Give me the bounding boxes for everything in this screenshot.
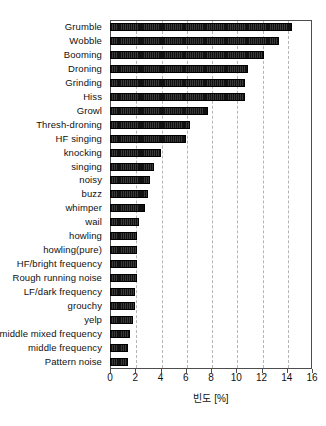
- bar: [110, 79, 245, 87]
- bar: [110, 135, 186, 143]
- bar: [110, 232, 137, 240]
- bar-row: [110, 285, 312, 299]
- category-label: middle mixed frequency: [0, 329, 102, 339]
- category-label: HF/bright frequency: [17, 259, 102, 269]
- bar-row: [110, 313, 312, 327]
- bar: [110, 163, 154, 171]
- category-label-row: Droning: [0, 62, 106, 76]
- bar: [110, 121, 190, 129]
- category-label-row: Rough running noise: [0, 271, 106, 285]
- category-label-row: whimper: [0, 201, 106, 215]
- bar-row: [110, 76, 312, 90]
- bar-row: [110, 132, 312, 146]
- bar: [110, 65, 248, 73]
- bar: [110, 176, 150, 184]
- bar: [110, 330, 130, 338]
- category-label-row: Wobble: [0, 34, 106, 48]
- category-label: Thresh-droning: [36, 120, 102, 130]
- category-label: Rough running noise: [12, 273, 102, 283]
- bar-row: [110, 299, 312, 313]
- bar: [110, 302, 135, 310]
- category-label-row: grouchy: [0, 299, 106, 313]
- category-label-row: Hiss: [0, 90, 106, 104]
- category-label: buzz: [82, 189, 102, 199]
- bar: [110, 316, 133, 324]
- category-label-row: Booming: [0, 48, 106, 62]
- category-label-row: Grinding: [0, 76, 106, 90]
- bar: [110, 246, 137, 254]
- category-label: LF/dark frequency: [24, 287, 102, 297]
- bar-row: [110, 146, 312, 160]
- x-tick-label-10: 10: [231, 372, 242, 384]
- category-label-row: middle mixed frequency: [0, 327, 106, 341]
- category-label-row: yelp: [0, 313, 106, 327]
- bar-row: [110, 20, 312, 34]
- category-label-row: howling(pure): [0, 243, 106, 257]
- bar-row: [110, 173, 312, 187]
- category-label-row: Grumble: [0, 20, 106, 34]
- x-tick-label-8: 8: [208, 372, 214, 384]
- category-label-row: HF/bright frequency: [0, 257, 106, 271]
- category-label: wail: [85, 217, 102, 227]
- bar-row: [110, 34, 312, 48]
- bar-row: [110, 243, 312, 257]
- bar-row: [110, 341, 312, 355]
- bar-row: [110, 215, 312, 229]
- category-label: Pattern noise: [45, 357, 102, 367]
- category-label: howling: [69, 231, 102, 241]
- bar-series: [110, 20, 312, 369]
- x-tick-label-12: 12: [256, 372, 267, 384]
- bar: [110, 149, 161, 157]
- bar-row: [110, 90, 312, 104]
- x-tick-label-16: 16: [306, 372, 317, 384]
- category-label-row: buzz: [0, 187, 106, 201]
- category-label: singing: [71, 162, 102, 172]
- category-axis-labels: GrumbleWobbleBoomingDroningGrindingHissG…: [0, 20, 106, 369]
- category-label-row: singing: [0, 160, 106, 174]
- category-label: grouchy: [68, 301, 103, 311]
- category-label: middle frequency: [28, 343, 102, 353]
- category-label: HF singing: [56, 134, 102, 144]
- category-label-row: Pattern noise: [0, 355, 106, 369]
- bar: [110, 51, 264, 59]
- bar-row: [110, 327, 312, 341]
- category-label-row: noisy: [0, 173, 106, 187]
- x-tick-label-6: 6: [183, 372, 189, 384]
- category-label: Wobble: [69, 36, 102, 46]
- bar: [110, 23, 292, 31]
- x-axis-title: 빈도 [%]: [110, 390, 312, 405]
- category-label: whimper: [65, 203, 102, 213]
- category-label: Hiss: [83, 92, 102, 102]
- bar-chart-figure: GrumbleWobbleBoomingDroningGrindingHissG…: [0, 0, 326, 426]
- category-label-row: HF singing: [0, 132, 106, 146]
- x-tick-label-0: 0: [107, 372, 113, 384]
- x-tick-label-14: 14: [281, 372, 292, 384]
- category-label: Growl: [77, 106, 102, 116]
- category-label-row: howling: [0, 229, 106, 243]
- category-label-row: Growl: [0, 104, 106, 118]
- bar: [110, 218, 139, 226]
- bar-row: [110, 355, 312, 369]
- bar-row: [110, 118, 312, 132]
- bar: [110, 288, 135, 296]
- bar-row: [110, 62, 312, 76]
- bar: [110, 260, 137, 268]
- bar: [110, 107, 208, 115]
- bar: [110, 37, 279, 45]
- x-tick-label-4: 4: [158, 372, 164, 384]
- bar-row: [110, 48, 312, 62]
- category-label-row: knocking: [0, 146, 106, 160]
- bar-row: [110, 187, 312, 201]
- x-tick-label-2: 2: [132, 372, 138, 384]
- category-label: Droning: [68, 64, 102, 74]
- category-label: Grumble: [65, 22, 102, 32]
- category-label-row: Thresh-droning: [0, 118, 106, 132]
- category-label: noisy: [79, 175, 102, 185]
- bar-row: [110, 257, 312, 271]
- bar-row: [110, 160, 312, 174]
- category-label-row: middle frequency: [0, 341, 106, 355]
- bar: [110, 344, 128, 352]
- bar: [110, 204, 145, 212]
- category-label: howling(pure): [43, 245, 102, 255]
- bar-row: [110, 104, 312, 118]
